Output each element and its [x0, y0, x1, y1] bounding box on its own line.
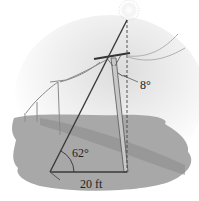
base-length-label: 20 ft [80, 177, 102, 192]
diagram [0, 0, 199, 201]
angle-label-bottom: 62° [72, 146, 89, 161]
angle-label-top: 8° [140, 78, 151, 93]
sun-icon [119, 0, 139, 20]
